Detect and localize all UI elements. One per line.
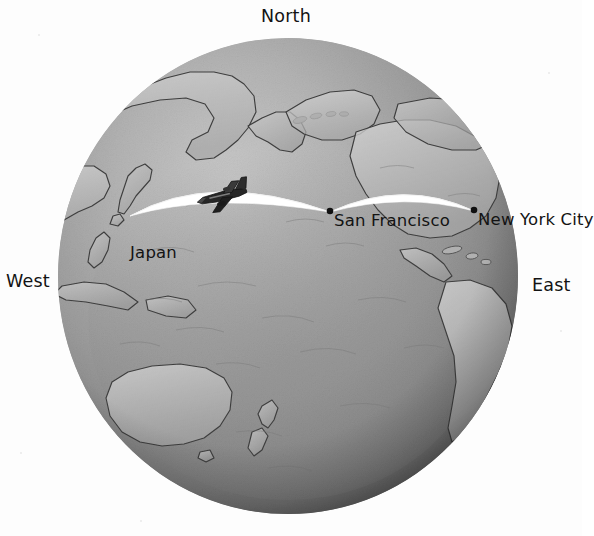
- marker-new-york-city[interactable]: [471, 207, 478, 214]
- scan-speck: [548, 72, 550, 74]
- marker-san-francisco[interactable]: [327, 208, 334, 215]
- city-label-japan: Japan: [130, 245, 177, 262]
- city-label-san-francisco: San Francisco: [334, 213, 450, 230]
- city-label-new-york-city: New York City: [478, 212, 594, 229]
- scan-speck: [20, 452, 22, 454]
- globe-limb-shadow: [58, 38, 518, 514]
- compass-label-east: East: [532, 277, 571, 295]
- scan-speck: [38, 34, 40, 36]
- compass-label-west: West: [6, 273, 50, 291]
- compass-label-north: North: [261, 8, 311, 26]
- scan-speck: [560, 330, 562, 332]
- scan-speck: [140, 520, 142, 522]
